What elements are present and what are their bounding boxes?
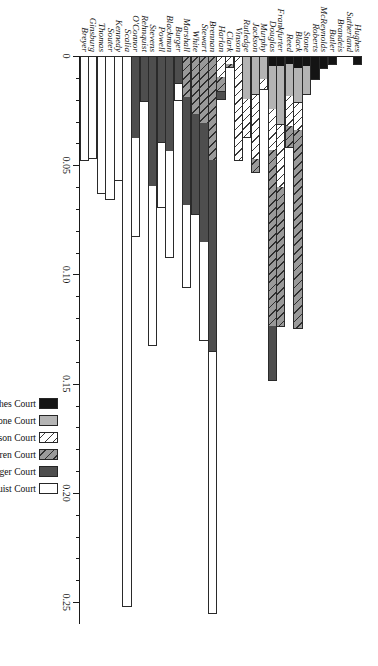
stacked-bar [114,56,123,181]
bar-segment-burger [157,56,166,143]
stacked-bar [310,56,319,80]
axis-tick-minor [76,100,80,101]
bar-row: Vinson [234,56,243,624]
bar-segment-vinson [234,56,243,161]
bar-row: Black [293,56,302,624]
stacked-bar [105,56,114,200]
bar-segment-stone [242,56,251,100]
bar-segment-rehnquist [157,143,166,209]
bar-segment-warren [225,64,234,68]
bar-row: O'Connor [131,56,140,624]
bar-segment-burger [208,160,217,352]
legend-item-hughes: Hughes Court [0,398,58,409]
bar-segment-vinson [293,103,302,131]
axis-tick-major [73,274,80,275]
bar-row: Burger [174,56,183,624]
bar-segment-burger [191,114,200,214]
legend-label: Burger Court [0,466,36,477]
legend-label: Vinson Court [0,432,36,443]
bar-segment-warren [293,130,302,329]
bar-row: Reed [285,56,294,624]
bar-segment-vinson [242,99,251,138]
stacked-bar [225,56,234,68]
bar-segment-burger [131,56,140,139]
axis-tick-minor [76,143,80,144]
bar-row: Roberts [310,56,319,624]
axis-tick-minor [76,362,80,363]
stacked-bar [165,56,174,258]
bar-segment-hughes [319,56,328,69]
bar-segment-warren [268,150,277,327]
axis-tick-minor [76,449,80,450]
bar-segment-vinson [285,96,294,127]
bar-segment-vinson [268,109,277,151]
legend-swatch-vinson [39,432,58,443]
axis-tick-major [73,602,80,603]
axis-tick-major [73,165,80,166]
axis-tick-minor [76,340,80,341]
stacked-bar [80,56,89,161]
bar-segment-burger [174,56,183,84]
axis-tick-major [73,384,80,385]
stacked-bar [251,56,260,173]
axis-tick-minor [76,558,80,559]
bar-segment-warren [199,56,208,124]
bar-segment-burger [148,56,157,187]
stacked-bar [234,56,243,161]
axis-tick-major [73,493,80,494]
plot-area: HughesSutherlandBrandeisButlerMcReynolds… [80,56,362,624]
bar-row: Souter [105,56,114,624]
legend-item-burger: Burger Court [0,466,58,477]
chart-figure: HughesSutherlandBrandeisButlerMcReynolds… [0,0,378,666]
bar-segment-stone [276,66,285,125]
bar-segment-rehnquist [182,205,191,288]
axis-tick-label: 0.10 [61,266,72,284]
axis-tick-minor [76,318,80,319]
legend-item-stone: Stone Court [0,415,58,426]
bar-segment-stone [293,68,302,103]
axis-tick-minor [76,515,80,516]
stacked-bar [131,56,140,237]
bar-segment-hughes [328,56,337,65]
stacked-bar [276,56,285,327]
legend-item-vinson: Vinson Court [0,432,58,443]
stacked-bar [259,56,268,90]
bar-segment-rehnquist [105,56,114,200]
stacked-bar [208,56,217,614]
bar-segment-rehnquist [208,352,217,614]
axis-tick-minor [76,78,80,79]
bar-row: Murphy [259,56,268,624]
stacked-bar [302,56,311,95]
bar-segment-rehnquist [122,56,131,607]
bar-row: Marshall [182,56,191,624]
bar-row: Butler [328,56,337,624]
axis-tick-minor [76,427,80,428]
legend-item-rehnquist: Rehnquist Court [0,483,58,494]
bar-segment-warren [216,77,225,92]
bar-row: Kennedy [114,56,123,624]
bar-row: Scalia [122,56,131,624]
stacked-bar [157,56,166,208]
bar-row: Powell [157,56,166,624]
stacked-bar [174,56,183,101]
legend-swatch-burger [39,466,58,477]
bar-row: Jackson [251,56,260,624]
legend-swatch-rehnquist [39,483,58,494]
bar-row: Rutledge [242,56,251,624]
bar-segment-rehnquist [97,56,106,194]
bar-segment-burger [182,97,191,206]
bar-segment-stone [259,56,268,80]
bar-row: Brennan [208,56,217,624]
axis-tick-minor [76,209,80,210]
stacked-bar [199,56,208,341]
axis-tick-minor [76,580,80,581]
bar-row: Blackmun [165,56,174,624]
bar-segment-rehnquist [174,84,183,101]
axis-tick-major [73,56,80,57]
axis-tick-minor [76,406,80,407]
stacked-bar [353,56,362,65]
bar-segment-rehnquist [148,186,157,345]
legend-swatch-hughes [39,398,58,409]
bar-row: Clark [225,56,234,624]
stacked-bar [285,56,294,148]
